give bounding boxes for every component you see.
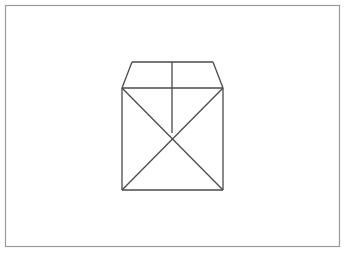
line-drawing-svg [0,0,351,256]
screenshot-root [0,0,351,256]
drawing-canvas [0,0,351,256]
